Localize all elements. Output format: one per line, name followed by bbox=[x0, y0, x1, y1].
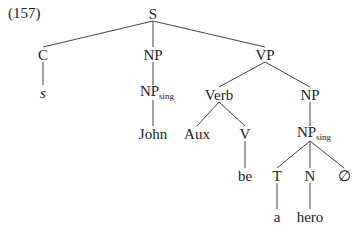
edge-vp-np2 bbox=[265, 62, 310, 87]
edge-vp-verb bbox=[219, 62, 265, 87]
tree-node-aux: Aux bbox=[184, 126, 210, 142]
tree-node-be: be bbox=[238, 168, 252, 184]
node-label: NP bbox=[140, 83, 159, 99]
tree-node-np1: NP bbox=[143, 47, 162, 63]
tree-node-t: T bbox=[272, 168, 281, 184]
tree-node-c: C bbox=[38, 47, 48, 63]
node-label: ∅ bbox=[338, 168, 351, 184]
edge-verb-aux bbox=[197, 102, 219, 126]
node-label: John bbox=[139, 126, 167, 142]
node-subscript: sing bbox=[316, 132, 331, 142]
node-label: hero bbox=[297, 209, 324, 225]
tree-node-np2: NP bbox=[300, 87, 319, 103]
tree-node-n: N bbox=[305, 168, 316, 184]
node-subscript: sing bbox=[159, 91, 174, 101]
node-label: N bbox=[305, 168, 316, 184]
edge-s-vp bbox=[153, 21, 265, 47]
edge-npsing2-null bbox=[310, 141, 344, 168]
tree-node-v: V bbox=[240, 126, 251, 142]
tree-node-npsing2: NPsing bbox=[297, 124, 331, 145]
node-label: Aux bbox=[184, 126, 210, 142]
node-label: V bbox=[240, 126, 251, 142]
node-label: C bbox=[38, 47, 48, 63]
tree-node-a: a bbox=[274, 209, 281, 225]
node-label: VP bbox=[255, 47, 274, 63]
edge-npsing2-t bbox=[277, 141, 310, 168]
node-label: S bbox=[149, 6, 157, 22]
tree-node-null: ∅ bbox=[338, 168, 351, 184]
node-label: T bbox=[272, 168, 281, 184]
tree-node-verb: Verb bbox=[205, 87, 233, 103]
tree-node-john: John bbox=[139, 126, 167, 142]
node-label: NP bbox=[143, 47, 162, 63]
node-label: NP bbox=[297, 124, 316, 140]
tree-edges bbox=[0, 0, 359, 227]
tree-node-vp: VP bbox=[255, 47, 274, 63]
edge-s-c bbox=[43, 21, 153, 47]
node-label: s bbox=[40, 85, 46, 101]
edge-verb-v bbox=[219, 102, 245, 126]
node-label: NP bbox=[300, 87, 319, 103]
tree-node-s: s bbox=[40, 85, 46, 101]
tree-node-s: S bbox=[149, 6, 157, 22]
node-label: a bbox=[274, 209, 281, 225]
node-label: Verb bbox=[205, 87, 233, 103]
node-label: be bbox=[238, 168, 252, 184]
tree-node-hero: hero bbox=[297, 209, 324, 225]
tree-node-npsing1: NPsing bbox=[140, 83, 174, 104]
